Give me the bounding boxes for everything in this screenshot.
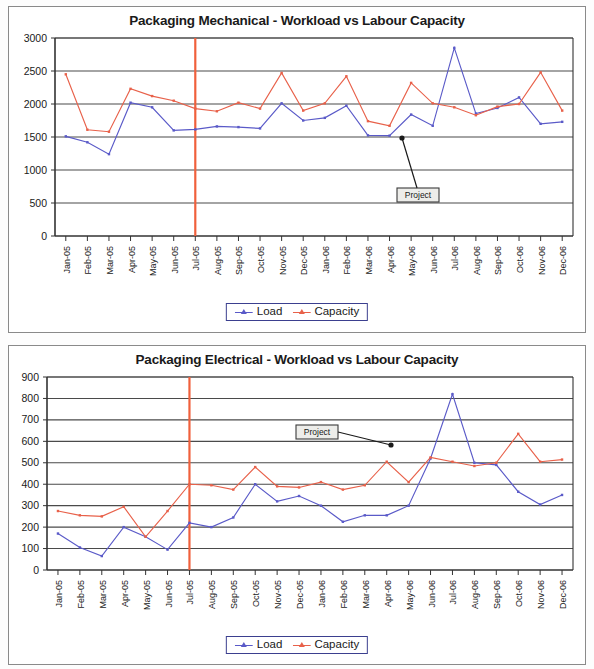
legend-label-capacity: Capacity [314, 638, 359, 651]
x-axis-tick-label: Jan-06 [317, 580, 327, 608]
data-point-load [108, 153, 110, 155]
data-point-load [386, 514, 388, 516]
x-axis-tick-label: Jun-05 [170, 246, 180, 274]
y-axis-tick-label: 1000 [24, 164, 48, 176]
x-axis-tick-label: Dec-06 [558, 246, 568, 275]
legend-entry-load: Load [235, 305, 283, 318]
series-line-load [58, 394, 562, 556]
data-point-capacity [237, 101, 239, 103]
plot-area-mechanical: 050010001500200025003000Jan-05Feb-05Mar-… [9, 28, 585, 298]
data-point-capacity [173, 100, 175, 102]
project-callout-label: Project [405, 190, 432, 200]
data-point-load [388, 134, 390, 136]
data-point-load [518, 96, 520, 98]
project-callout-leader [338, 432, 391, 445]
data-point-capacity [79, 514, 81, 516]
x-axis-tick-label: May-06 [407, 246, 417, 276]
legend-swatch-load-icon [235, 640, 253, 650]
data-point-load [342, 521, 344, 523]
x-axis-tick-label: Nov-06 [537, 246, 547, 275]
data-point-capacity [86, 129, 88, 131]
x-axis-tick-label: Oct-05 [251, 580, 261, 607]
y-axis-tick-label: 2000 [24, 98, 48, 110]
x-axis-tick-label: Dec-06 [558, 580, 568, 609]
data-point-load [539, 123, 541, 125]
x-axis-tick-label: Oct-05 [256, 246, 266, 273]
data-point-capacity [388, 125, 390, 127]
series-line-capacity [58, 434, 562, 537]
legend-entry-capacity: Capacity [292, 638, 359, 651]
x-axis-tick-label: Aug-05 [213, 246, 223, 275]
data-point-load [79, 546, 81, 548]
x-axis-tick-label: Apr-06 [383, 580, 393, 607]
data-point-capacity [324, 102, 326, 104]
data-point-load [364, 514, 366, 516]
data-point-load [280, 102, 282, 104]
data-point-load [407, 504, 409, 506]
x-axis-tick-label: May-05 [142, 580, 152, 610]
data-point-capacity [210, 484, 212, 486]
data-point-load [123, 526, 125, 528]
data-point-capacity [108, 131, 110, 133]
data-point-capacity [216, 110, 218, 112]
data-point-load [86, 141, 88, 143]
data-point-load [129, 101, 131, 103]
data-point-load [151, 106, 153, 108]
data-point-load [432, 125, 434, 127]
legend-swatch-load-icon [235, 307, 253, 317]
data-point-load [276, 500, 278, 502]
x-axis-tick-label: Mar-05 [98, 580, 108, 609]
project-callout-label: Project [304, 427, 331, 437]
x-axis-tick-label: Sep-05 [229, 580, 239, 609]
x-axis-tick-label: Oct-06 [515, 246, 525, 273]
data-point-capacity [495, 462, 497, 464]
data-point-load [298, 495, 300, 497]
charts-page: Packaging Mechanical - Workload vs Labou… [0, 0, 594, 669]
data-point-load [561, 494, 563, 496]
y-axis-tick-label: 300 [21, 499, 39, 511]
data-point-capacity [539, 461, 541, 463]
data-point-load [57, 532, 59, 534]
x-axis-tick-label: Nov-06 [536, 580, 546, 609]
x-axis-tick-label: Apr-06 [386, 246, 396, 273]
chart-svg-mechanical: 050010001500200025003000Jan-05Feb-05Mar-… [9, 28, 585, 298]
data-point-load [539, 503, 541, 505]
data-point-capacity [101, 515, 103, 517]
data-point-capacity [364, 484, 366, 486]
data-point-capacity [432, 102, 434, 104]
x-axis-tick-label: Feb-06 [339, 580, 349, 609]
data-point-load [453, 47, 455, 49]
data-point-capacity [410, 82, 412, 84]
series-line-capacity [66, 72, 562, 131]
x-axis-tick-label: Apr-05 [127, 246, 137, 273]
data-point-capacity [276, 485, 278, 487]
data-point-capacity [429, 456, 431, 458]
chart-title-electrical: Packaging Electrical - Workload vs Labou… [9, 352, 585, 367]
x-axis-tick-label: Jul-05 [191, 246, 201, 271]
x-axis-tick-label: Jun-05 [164, 580, 174, 608]
y-axis-tick-label: 700 [21, 413, 39, 425]
data-point-load [216, 125, 218, 127]
x-axis-tick-label: Sep-05 [234, 246, 244, 275]
data-point-capacity [407, 481, 409, 483]
data-point-capacity [453, 106, 455, 108]
data-point-load [188, 522, 190, 524]
data-point-capacity [280, 72, 282, 74]
y-axis-tick-label: 900 [21, 371, 39, 383]
legend-label-load: Load [257, 638, 283, 651]
legend-mechanical: LoadCapacity [226, 303, 368, 321]
x-axis-tick-label: Jan-06 [321, 246, 331, 274]
data-point-capacity [367, 120, 369, 122]
project-callout-leader [402, 138, 417, 188]
chart-panel-electrical: Packaging Electrical - Workload vs Labou… [8, 345, 586, 665]
data-point-load [324, 117, 326, 119]
data-point-capacity [561, 109, 563, 111]
data-point-capacity [166, 510, 168, 512]
x-axis-tick-label: Jul-06 [448, 580, 458, 605]
x-axis-tick-label: Nov-05 [273, 580, 283, 609]
data-point-capacity [151, 95, 153, 97]
data-point-capacity [123, 506, 125, 508]
x-axis-tick-label: Sep-06 [492, 580, 502, 609]
x-axis-tick-label: Jul-06 [450, 246, 460, 271]
x-axis-tick-label: Feb-06 [342, 246, 352, 275]
